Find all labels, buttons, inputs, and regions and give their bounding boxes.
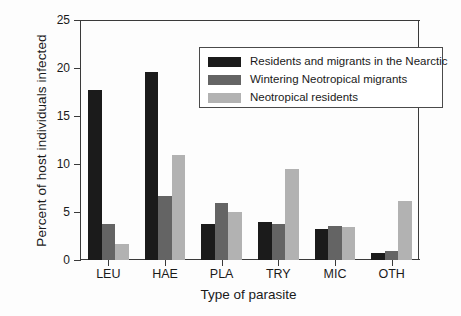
bar: [285, 169, 299, 260]
x-axis-title: Type of parasite: [76, 287, 421, 302]
bar: [115, 244, 129, 260]
x-tick-mark: [165, 260, 166, 266]
bar: [328, 226, 342, 260]
chart-legend: Residents and migrants in the Nearctic W…: [199, 47, 443, 108]
y-tick-label: 10: [46, 158, 70, 170]
bar: [145, 72, 159, 260]
legend-row: Residents and migrants in the Nearctic: [208, 55, 448, 68]
legend-swatch-icon: [208, 57, 241, 67]
bar: [102, 224, 116, 260]
bar: [398, 201, 412, 260]
y-tick-label: 20: [46, 62, 70, 74]
bar: [272, 224, 286, 260]
legend-row: Wintering Neotropical migrants: [208, 73, 407, 86]
y-tick-label: 0: [46, 254, 70, 266]
bar: [315, 229, 329, 260]
x-tick-mark: [108, 260, 109, 266]
x-tick-label: MIC: [305, 267, 365, 281]
bar: [201, 224, 215, 260]
bar: [371, 253, 385, 260]
bar: [158, 196, 172, 260]
y-tick-label: 25: [46, 14, 70, 26]
x-tick-label: HAE: [135, 267, 195, 281]
x-tick-mark: [392, 260, 393, 266]
legend-row: Neotropical residents: [208, 91, 358, 104]
bar: [258, 222, 272, 260]
bar: [385, 251, 399, 260]
x-tick-label: TRY: [248, 267, 308, 281]
x-tick-label: LEU: [78, 267, 138, 281]
bar: [172, 155, 186, 260]
y-tick-mark: [74, 260, 81, 261]
bar-chart-figure: Percent of host individuals infected Typ…: [0, 0, 461, 316]
x-tick-mark: [222, 260, 223, 266]
legend-swatch-icon: [208, 93, 241, 103]
legend-swatch-icon: [208, 75, 241, 85]
bar: [342, 227, 356, 260]
legend-label: Neotropical residents: [250, 92, 358, 104]
x-tick-label: PLA: [192, 267, 252, 281]
x-tick-label: OTH: [362, 267, 422, 281]
bar: [228, 212, 242, 260]
y-tick-label: 15: [46, 110, 70, 122]
x-tick-mark: [278, 260, 279, 266]
y-axis-title: Percent of host individuals infected: [34, 16, 49, 266]
y-tick-label: 5: [46, 206, 70, 218]
legend-label: Wintering Neotropical migrants: [250, 74, 407, 86]
x-tick-mark: [335, 260, 336, 266]
legend-label: Residents and migrants in the Nearctic: [250, 56, 448, 68]
bar: [88, 90, 102, 260]
bar: [215, 203, 229, 260]
